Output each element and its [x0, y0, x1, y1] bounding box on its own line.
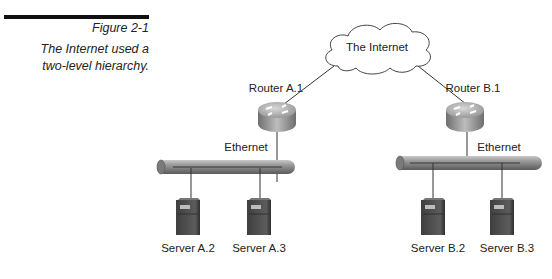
ethernet-a-label: Ethernet — [224, 141, 268, 153]
network-diagram: The Internet Router A.1 Router B.1 Ether… — [0, 0, 552, 279]
server-a2-icon — [176, 198, 200, 235]
router-b-icon — [446, 102, 484, 132]
ethernet-b-label: Ethernet — [477, 141, 521, 153]
server-b3-icon — [490, 198, 514, 235]
ethernet-bus-b — [396, 156, 542, 170]
router-a-icon — [258, 102, 296, 132]
server-a2-label: Server A.2 — [161, 242, 215, 254]
server-a3-label: Server A.3 — [232, 242, 286, 254]
internet-label: The Internet — [346, 41, 409, 53]
server-b3-label: Server B.3 — [480, 242, 534, 254]
server-b2-label: Server B.2 — [411, 242, 465, 254]
router-a-label: Router A.1 — [249, 82, 303, 94]
server-b2-icon — [421, 198, 445, 235]
server-a3-icon — [247, 198, 271, 235]
ethernet-bus-a — [157, 160, 295, 174]
router-b-label: Router B.1 — [446, 82, 501, 94]
